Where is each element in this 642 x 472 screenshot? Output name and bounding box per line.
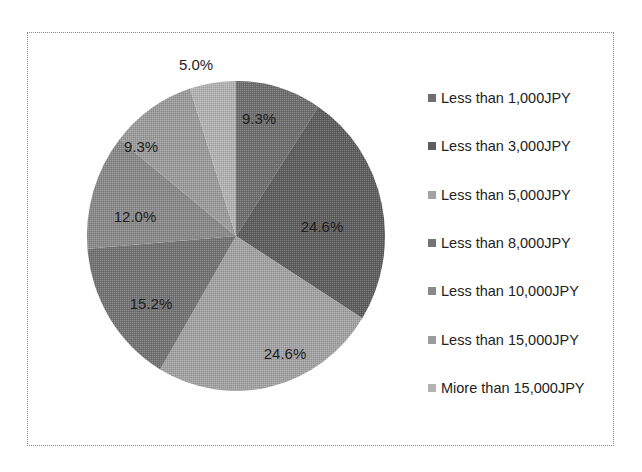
legend-swatch-icon bbox=[428, 336, 436, 344]
legend-label: Less than 5,000JPY bbox=[441, 187, 571, 203]
legend-label: Less than 3,000JPY bbox=[441, 138, 571, 154]
pie-data-label: 15.2% bbox=[130, 295, 173, 312]
pie-data-label: 24.6% bbox=[264, 345, 307, 362]
legend-label: Less than 8,000JPY bbox=[441, 235, 571, 251]
legend-item: Less than 5,000JPY bbox=[428, 185, 571, 205]
legend-label: Miore than 15,000JPY bbox=[441, 380, 584, 396]
legend-swatch-icon bbox=[428, 191, 436, 199]
pie-slices bbox=[87, 81, 385, 391]
legend-item: Less than 15,000JPY bbox=[428, 330, 579, 350]
legend-swatch-icon bbox=[428, 384, 436, 392]
legend-label: Less than 15,000JPY bbox=[441, 332, 579, 348]
legend-label: Less than 10,000JPY bbox=[441, 283, 579, 299]
legend-item: Less than 1,000JPY bbox=[428, 88, 571, 108]
legend-swatch-icon bbox=[428, 142, 436, 150]
legend-item: Less than 10,000JPY bbox=[428, 281, 579, 301]
pie-data-label: 24.6% bbox=[301, 218, 344, 235]
legend-label: Less than 1,000JPY bbox=[441, 90, 571, 106]
legend-item: Less than 8,000JPY bbox=[428, 233, 571, 253]
legend-swatch-icon bbox=[428, 94, 436, 102]
legend-swatch-icon bbox=[428, 287, 436, 295]
pie-data-label: 9.3% bbox=[124, 138, 158, 155]
pie-data-label: 5.0% bbox=[179, 56, 213, 73]
legend-swatch-icon bbox=[428, 239, 436, 247]
legend-item: Miore than 15,000JPY bbox=[428, 378, 584, 398]
pie-data-label: 9.3% bbox=[242, 110, 276, 127]
legend-item: Less than 3,000JPY bbox=[428, 136, 571, 156]
pie-data-label: 12.0% bbox=[114, 208, 157, 225]
